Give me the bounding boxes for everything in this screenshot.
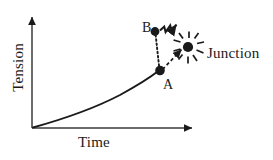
lightning-arrow-b-to-junction <box>160 25 176 32</box>
x-axis-label: Time <box>78 135 110 150</box>
junction-marker <box>183 42 193 52</box>
tension-time-figure: Tension Time A B Junction <box>0 0 273 160</box>
point-a-label: A <box>163 78 173 92</box>
junction-label: Junction <box>207 46 259 61</box>
point-a-marker <box>155 66 165 76</box>
tension-curve <box>33 71 159 128</box>
connector-a-to-b <box>156 34 160 71</box>
point-b-label: B <box>142 21 151 35</box>
point-b-marker <box>151 27 160 36</box>
figure-canvas <box>0 0 273 160</box>
y-axis-label: Tension <box>11 38 26 98</box>
